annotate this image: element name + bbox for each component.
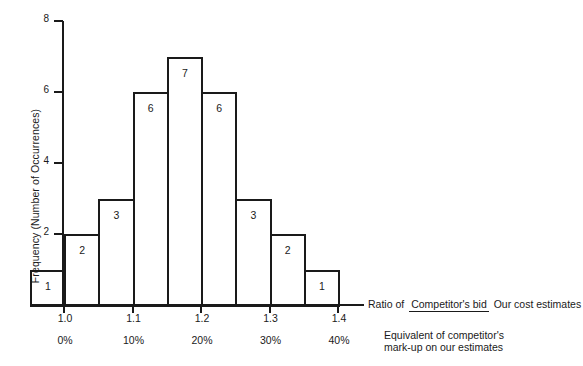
x-percent-label-10pct: 10%	[111, 334, 157, 346]
x-tick-label-1.3: 1.3	[251, 312, 291, 324]
y-tick-2: 2	[54, 233, 63, 235]
x-tick-label-1.0: 1.0	[45, 312, 85, 324]
histogram-bar: 2	[64, 234, 100, 307]
histogram-bar: 6	[133, 92, 169, 307]
histogram-bar: 2	[270, 234, 306, 307]
y-tick-label-8: 8	[43, 13, 49, 24]
x-tick-label-1.4: 1.4	[319, 312, 359, 324]
x-percent-label-0pct: 0%	[42, 334, 88, 346]
bar-value-label: 2	[272, 244, 304, 256]
x-tick-label-1.1: 1.1	[114, 312, 154, 324]
y-tick-label-2: 2	[43, 226, 49, 237]
x-tick-label-1.2: 1.2	[182, 312, 222, 324]
markup-annotation: Equivalent of competitor's mark-up on ou…	[384, 330, 504, 353]
markup-line-2: mark-up on our estimates	[384, 342, 504, 354]
bar-value-label: 2	[66, 244, 98, 256]
x-percent-label-30pct: 30%	[248, 334, 294, 346]
x-axis-ratio-annotation: Ratio of Competitor's bid Our cost estim…	[368, 298, 583, 310]
bar-value-label: 3	[237, 209, 269, 221]
histogram-bar: 6	[201, 92, 237, 307]
histogram-bar: 7	[167, 57, 203, 308]
bar-value-label: 1	[32, 280, 64, 292]
ratio-lead-label: Ratio of	[368, 298, 404, 310]
markup-line-1: Equivalent of competitor's	[384, 330, 504, 342]
bar-value-label: 6	[135, 102, 167, 114]
bar-value-label: 7	[169, 67, 201, 79]
bar-value-label: 3	[100, 209, 132, 221]
y-tick-8: 8	[54, 20, 63, 22]
ratio-fraction: Competitor's bid Our cost estimates	[409, 298, 583, 310]
ratio-numerator: Competitor's bid	[409, 298, 489, 312]
histogram-bar: 3	[98, 199, 134, 308]
y-tick-6: 6	[54, 91, 63, 93]
bar-value-label: 6	[203, 102, 235, 114]
x-percent-label-40pct: 40%	[316, 334, 362, 346]
y-tick-label-4: 4	[43, 155, 49, 166]
histogram-bar: 3	[235, 199, 271, 308]
histogram-bar: 1	[304, 270, 340, 308]
ratio-denominator: Our cost estimates	[492, 297, 583, 310]
bar-value-label: 1	[306, 280, 338, 292]
y-tick-label-6: 6	[43, 84, 49, 95]
x-percent-label-20pct: 20%	[179, 334, 225, 346]
histogram-bar: 1	[30, 270, 66, 308]
y-tick-4: 4	[54, 162, 63, 164]
